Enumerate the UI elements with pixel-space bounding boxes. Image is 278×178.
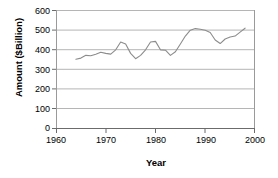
data-series-line — [76, 28, 245, 59]
line-chart: Amount ($Billion) 600 500 400 300 200 10… — [0, 0, 278, 178]
y-axis-ticks — [52, 11, 56, 129]
x-axis-title: Year — [56, 157, 256, 168]
gridlines — [56, 11, 255, 109]
plot-area — [0, 0, 278, 178]
